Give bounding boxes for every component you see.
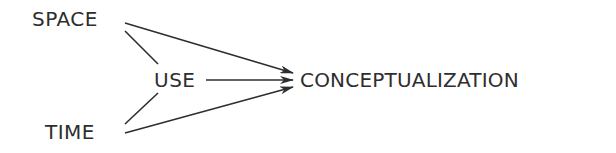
edge-space-to-conceptualization — [125, 23, 293, 73]
edge-time-to-conceptualization — [125, 87, 293, 133]
node-time: TIME — [45, 122, 95, 142]
node-use: USE — [154, 70, 195, 90]
diagram-canvas: SPACE USE TIME CONCEPTUALIZATION — [0, 0, 616, 153]
node-conceptualization: CONCEPTUALIZATION — [300, 70, 519, 90]
node-space: SPACE — [32, 9, 98, 29]
edge-space-to-use — [125, 31, 158, 64]
edge-time-to-use — [125, 93, 158, 124]
